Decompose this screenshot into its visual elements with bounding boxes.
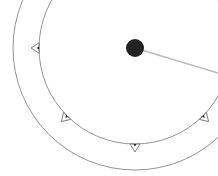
outer-ring <box>13 0 218 170</box>
pointer-line <box>135 48 218 73</box>
inner-ring <box>39 0 218 144</box>
tick-markers <box>31 43 212 152</box>
marker-lower-right-icon <box>199 112 212 125</box>
marker-bottom-icon <box>130 144 140 152</box>
marker-lower-left-icon <box>58 112 71 125</box>
knob-handle[interactable] <box>126 39 144 57</box>
marker-left-icon <box>31 43 39 53</box>
dial <box>0 0 218 176</box>
